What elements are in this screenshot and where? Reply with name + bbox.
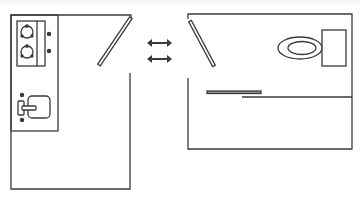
arrow-bottom (147, 55, 172, 63)
left-room (11, 15, 132, 189)
bidirectional-arrows-icon (147, 39, 172, 63)
right-swing-door (189, 20, 216, 66)
toilet-icon (278, 30, 346, 66)
floor-plan-diagram (0, 0, 360, 200)
arrow-top (147, 39, 172, 47)
sink-icon (18, 93, 50, 121)
left-swing-door (98, 17, 132, 66)
sliding-door-rail (207, 91, 261, 94)
right-room (188, 14, 352, 149)
stove-icon (17, 21, 51, 66)
